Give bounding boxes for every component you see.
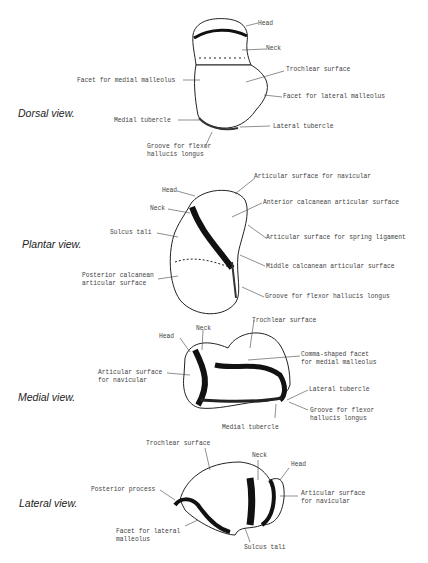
label-articular-navicular-2: for navicular: [301, 498, 350, 506]
label-posterior-calcanean: Posterior calcanean: [82, 272, 154, 280]
label-posterior-calcanean-2: articular surface: [82, 280, 146, 288]
lateral-view-bone: [175, 462, 284, 535]
label-groove-flexor: Groove for flexor: [147, 143, 211, 151]
label-sulcus-tali: Sulcus tali: [244, 544, 286, 552]
label-trochlear-surface: Trochlear surface: [146, 440, 210, 448]
label-posterior-process: Posterior process: [91, 486, 155, 494]
lateral-view-title: Lateral view.: [19, 497, 77, 509]
label-medial-tubercle: Medial tubercle: [114, 117, 171, 125]
label-head: Head: [162, 187, 177, 195]
medial-view-title: Medial view.: [18, 391, 75, 403]
label-facet-lateral-malleolus-2: malleolus: [116, 536, 150, 544]
label-neck: Neck: [150, 205, 165, 213]
label-comma-facet-2: for medial malleolus: [301, 359, 377, 367]
label-groove-flexor-2: hallucis longus: [147, 151, 204, 159]
dorsal-view-bone: [193, 19, 268, 130]
label-neck: Neck: [252, 452, 267, 460]
plantar-view-bone: [170, 190, 247, 313]
label-head: Head: [159, 333, 174, 341]
label-facet-lateral-malleolus: Facet for lateral: [116, 528, 180, 536]
label-articular-navicular: Articular surface: [98, 369, 162, 377]
label-head: Head: [291, 461, 306, 469]
label-trochlear-surface: Trochlear surface: [252, 317, 316, 325]
label-neck: Neck: [196, 325, 211, 333]
label-articular-navicular-2: for navicular: [98, 377, 147, 385]
label-spring-ligament: Articular surface for spring ligament: [266, 234, 406, 242]
medial-view-bone: [184, 333, 290, 408]
label-sulcus-tali: Sulcus tali: [110, 229, 152, 237]
label-facet-medial-malleolus: Facet for medial malleolus: [77, 77, 175, 85]
label-groove-flexor: Groove for flexor hallucis longus: [265, 293, 390, 301]
label-trochlear-surface: Trochlear surface: [286, 66, 350, 74]
label-lateral-tubercle: Lateral tubercle: [273, 123, 333, 131]
plantar-view-title: Plantar view.: [22, 238, 82, 250]
label-groove-flexor-2: hallucis longus: [310, 415, 367, 423]
label-medial-tubercle: Medial tubercle: [222, 424, 279, 432]
label-facet-lateral-malleolus: Facet for lateral malleolus: [283, 93, 385, 101]
talus-drawings: [0, 0, 428, 563]
label-lateral-tubercle: Lateral tubercle: [309, 386, 369, 394]
dorsal-view-title: Dorsal view.: [18, 107, 75, 119]
label-anterior-calcanean: Anterior calcanean articular surface: [263, 199, 399, 207]
label-neck: Neck: [266, 45, 281, 53]
label-middle-calcanean: Middle calcanean articular surface: [266, 263, 394, 271]
label-comma-facet: Comma-shaped facet: [301, 351, 369, 359]
label-articular-surface-navicular: Articular surface for navicular: [254, 173, 371, 181]
label-articular-navicular: Articular surface: [301, 490, 365, 498]
label-groove-flexor: Groove for flexor: [310, 407, 374, 415]
label-head: Head: [258, 20, 273, 28]
